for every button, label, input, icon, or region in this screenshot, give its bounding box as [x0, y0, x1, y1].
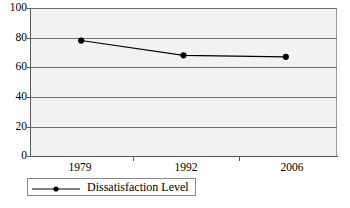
y-tick-label-40: 40 — [1, 91, 27, 103]
x-axis-line — [30, 156, 338, 157]
legend-label-dissatisfaction-level: Dissatisfaction Level — [87, 181, 189, 193]
y-tick-mark-20 — [27, 127, 31, 128]
x-tick-label-1979: 1979 — [50, 161, 110, 173]
y-tick-mark-100 — [27, 8, 31, 9]
gridline-40 — [30, 97, 337, 98]
y-axis-labels: 100 80 60 40 20 0 — [0, 0, 27, 208]
y-tick-label-0: 0 — [1, 150, 27, 162]
x-tick-label-2006: 2006 — [262, 161, 322, 173]
x-tick-label-1992: 1992 — [156, 161, 216, 173]
chart-legend: Dissatisfaction Level — [27, 178, 196, 196]
y-tick-mark-0 — [27, 156, 31, 157]
legend-line-marker-icon — [32, 181, 80, 193]
gridline-60 — [30, 67, 337, 68]
x-tick-mark-1 — [133, 157, 134, 161]
y-tick-mark-60 — [27, 67, 31, 68]
gridline-100 — [30, 8, 337, 9]
y-tick-label-60: 60 — [1, 61, 27, 73]
plot-area — [30, 8, 337, 156]
y-tick-mark-40 — [27, 97, 31, 98]
gridline-20 — [30, 127, 337, 128]
y-tick-label-20: 20 — [1, 121, 27, 133]
y-tick-mark-80 — [27, 38, 31, 39]
gridline-80 — [30, 38, 337, 39]
y-tick-label-100: 100 — [1, 2, 27, 14]
x-tick-mark-2 — [239, 157, 240, 161]
y-axis-line — [30, 8, 31, 157]
chart-figure: 100 80 60 40 20 0 1979 1992 2006 Dissati… — [0, 0, 350, 208]
y-tick-label-80: 80 — [1, 32, 27, 44]
